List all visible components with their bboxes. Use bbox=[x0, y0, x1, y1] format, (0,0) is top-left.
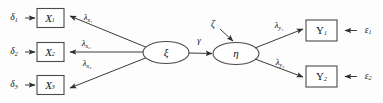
label-epsilon-1: ε1 bbox=[365, 25, 372, 36]
label-xi: ξ bbox=[164, 46, 169, 59]
x-indicator-boxes: X1 X2 X3 bbox=[37, 9, 64, 95]
latent-eta: η bbox=[213, 43, 259, 65]
disturbance-zeta: ζ bbox=[211, 19, 233, 41]
epsilon-error-arrows bbox=[345, 31, 357, 77]
xi-loading-paths bbox=[70, 16, 148, 88]
latent-xi: ξ bbox=[143, 42, 189, 64]
label-delta-1: δ1 bbox=[10, 12, 17, 23]
sem-path-diagram: δ1 δ2 δ3 X1 X2 X3 bbox=[0, 0, 383, 103]
delta-error-arrows bbox=[25, 18, 35, 85]
label-lambda-x3: λx₃ bbox=[82, 58, 92, 69]
label-epsilon-2: ε2 bbox=[365, 71, 372, 82]
path-eta-to-y1 bbox=[255, 29, 303, 48]
y-indicator-boxes: Y1 Y2 bbox=[306, 20, 337, 87]
delta-labels: δ1 δ2 δ3 bbox=[10, 12, 17, 90]
path-xi-to-eta bbox=[189, 53, 212, 54]
label-lambda-y1: λy₁ bbox=[274, 20, 284, 31]
label-lambda-x2: λx₂ bbox=[81, 38, 91, 49]
epsilon-labels: ε1 ε2 bbox=[365, 25, 372, 82]
eta-loading-paths bbox=[255, 29, 303, 77]
label-gamma: γ bbox=[197, 35, 201, 45]
label-lambda-x1: λx₁ bbox=[83, 12, 93, 23]
lambda-y-labels: λy₁ λy₂ bbox=[274, 20, 285, 68]
structural-path-gamma: γ bbox=[189, 35, 212, 53]
sem-diagram-canvas: δ1 δ2 δ3 X1 X2 X3 bbox=[0, 0, 383, 103]
label-delta-2: δ2 bbox=[10, 46, 17, 57]
label-delta-3: δ3 bbox=[10, 79, 17, 90]
label-eta: η bbox=[233, 47, 238, 59]
path-zeta-to-eta bbox=[220, 29, 233, 41]
label-lambda-y2: λy₂ bbox=[275, 57, 285, 68]
label-zeta: ζ bbox=[211, 19, 216, 30]
